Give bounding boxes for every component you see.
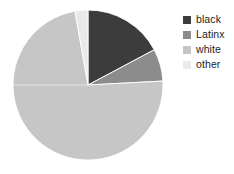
legend-swatch-icon-other (183, 61, 191, 69)
legend-label-other: other (196, 59, 220, 70)
pie-chart-figure: black Latinx white other (0, 0, 234, 174)
legend-item-white[interactable]: white (183, 43, 234, 56)
legend-swatch-icon-white (183, 46, 191, 54)
legend-swatch-icon-black (183, 16, 191, 24)
legend-item-latinx[interactable]: Latinx (183, 28, 234, 41)
pie-svg (0, 0, 176, 174)
legend-label-latinx: Latinx (196, 29, 225, 40)
legend-item-black[interactable]: black (183, 13, 234, 26)
chart-legend: black Latinx white other (183, 13, 234, 71)
pie-plot-area (0, 0, 176, 174)
legend-label-black: black (196, 14, 221, 25)
legend-swatch-icon-latinx (183, 31, 191, 39)
legend-item-other[interactable]: other (183, 58, 234, 71)
legend-label-white: white (196, 44, 221, 55)
